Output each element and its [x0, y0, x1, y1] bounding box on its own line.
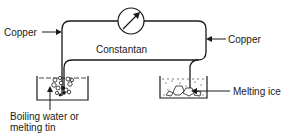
copper-right-label: Copper: [228, 34, 261, 45]
melting-ice-label: Melting ice: [233, 86, 281, 97]
hot-junction-label-line1: Boiling water or: [10, 111, 79, 122]
constantan-label: Constantan: [96, 44, 147, 55]
cold-beaker: [160, 76, 230, 98]
galvanometer-icon: [118, 8, 144, 34]
thermocouple-diagram: Copper Copper Constantan Melting ice Boi…: [0, 0, 288, 140]
copper-right-arrow: [206, 36, 226, 42]
copper-left-arrow: [42, 29, 62, 35]
hot-junction-label-line2: melting tin: [10, 122, 56, 133]
copper-left-label: Copper: [4, 27, 37, 38]
